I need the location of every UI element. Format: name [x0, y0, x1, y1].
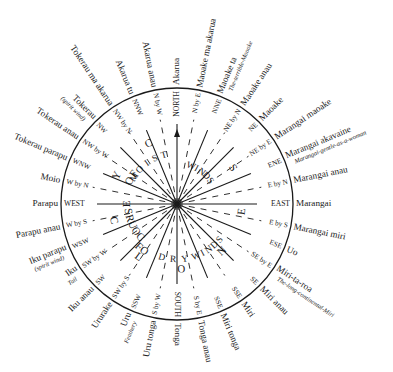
compass-point-label: SE by E [249, 250, 274, 270]
wind-name: Miri anau [258, 284, 291, 317]
course-text-letter: E [235, 207, 248, 215]
wind-name: Moio [40, 171, 62, 185]
wind-name: Uo [285, 244, 300, 258]
wind-name-group: Miri anau [258, 284, 291, 317]
course-text-letter: C [143, 136, 155, 150]
compass-point-label: E by S [268, 218, 288, 230]
wind-name-group: Miri [240, 300, 258, 320]
north-arrow-icon [174, 129, 180, 137]
wind-name: Parapu anau [15, 221, 62, 240]
compass-point-label: SOUTH [173, 292, 182, 318]
compass-point-label: NW [95, 121, 109, 135]
wind-name: Tokerau parapu [13, 131, 70, 162]
compass-point-label: WEST [64, 199, 85, 208]
wind-name-group: Maoake ma akarua [194, 18, 217, 88]
compass-point-label: S by E [192, 295, 204, 316]
wind-name-group: Akarua [171, 58, 181, 85]
wind-name-group: Akarua tu [114, 58, 137, 96]
compass-point-label: SW by S [111, 274, 132, 300]
compass-point-label: NW by N [111, 108, 134, 136]
compass-point-label: N by W [151, 92, 163, 116]
wind-name: Miri tonga [219, 312, 243, 352]
wind-name-group: Akarua anau [141, 40, 160, 88]
wind-name-group: Miri tonga [219, 312, 243, 352]
compass-point-label: NE by E [248, 137, 274, 158]
compass-point-label: W by N [65, 178, 90, 190]
compass-point-label: NE by N [222, 107, 243, 133]
compass-point-label: ESE [268, 238, 283, 251]
wind-name: Ururake [89, 300, 114, 331]
compass-point-label: NW by W [81, 138, 110, 161]
wind-name-group: Uru tonga [141, 320, 158, 358]
wind-name-group: Marangai [296, 198, 332, 208]
wind-name-group: Tokerau parapu [13, 131, 70, 162]
wind-name-group: Tonga anau [196, 320, 214, 364]
wind-name: Akarua tu [114, 58, 137, 96]
compass-point-label: NNW [130, 98, 144, 117]
wind-name-group: UruFeathery [112, 310, 140, 345]
wind-name: Maoake anau [238, 61, 274, 108]
wind-name: Marangai miri [293, 221, 347, 241]
wind-name: Akarua [171, 58, 181, 85]
wind-name-group: Iku anau [66, 284, 96, 314]
wind-name-group: Maoake anau [238, 61, 274, 108]
wind-compass-diagram: NORTHN by ENNENE by NNENE by EENEE by NE… [0, 0, 393, 372]
wind-name: Marangai anau [293, 164, 349, 185]
wind-name: Marangai [296, 198, 332, 208]
wind-name-group: Parapu [32, 198, 58, 208]
wind-name: Uru tonga [141, 320, 158, 358]
course-text-letter: E [120, 200, 132, 207]
compass-point-label: N by E [191, 92, 203, 114]
compass-point-label: ENE [267, 157, 284, 170]
wind-name: Parapu [32, 198, 58, 208]
wind-name: Akarua anau [141, 40, 160, 88]
wind-name-group: Maoake [257, 95, 285, 123]
compass-point-label: E by N [267, 178, 289, 190]
course-text-letter: S [227, 161, 240, 173]
wind-name-group: Parapu anau [15, 221, 62, 240]
compass-point-label: WNW [71, 157, 92, 172]
compass-point-label: NE [247, 121, 260, 134]
compass-point-label: SSE [230, 285, 244, 300]
compass-point-label: SE [248, 275, 260, 287]
dry-text-letter: Y [181, 253, 189, 264]
compass-point-label: SSE [212, 295, 224, 310]
compass-point-label: NNE [211, 97, 224, 114]
wind-name: Iku anau [66, 284, 96, 314]
wind-name-group: Moio [40, 171, 62, 185]
compass-point-label: S by W [151, 293, 163, 316]
wind-name-group: Marangai anau [293, 164, 349, 185]
wind-name: Tonga [173, 323, 183, 346]
compass-point-label: W by S [65, 218, 88, 230]
compass-point-label: SSW [130, 293, 143, 310]
center-point [175, 202, 179, 206]
wind-name-group: Uo [285, 244, 300, 258]
wind-name: Maoake ma akarua [194, 18, 217, 88]
compass-point-label: EAST [271, 199, 290, 208]
wind-name-group: Tonga [173, 323, 183, 346]
course-text-letter: Y [109, 169, 123, 181]
compass-point-label: SW [94, 273, 107, 286]
wind-name-group: Ururake [89, 300, 114, 331]
course-text-letter: C [108, 215, 121, 225]
compass-point-label: NORTH [172, 90, 181, 116]
compass-point-label: WSW [71, 236, 90, 250]
wind-name: Tonga anau [196, 320, 214, 364]
wind-name-group: Marangai miri [293, 221, 347, 241]
wind-name: Miri [240, 300, 258, 320]
wind-name: Maoake [257, 95, 285, 123]
dry-text-letter: D [157, 251, 166, 263]
compass-point-label: SW by W [81, 247, 109, 269]
